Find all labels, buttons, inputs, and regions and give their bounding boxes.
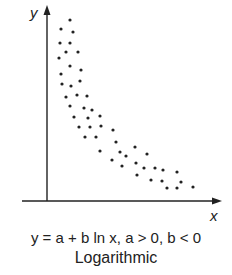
- data-point: [133, 145, 136, 148]
- data-points: [57, 18, 194, 189]
- data-point: [175, 170, 178, 173]
- data-point: [69, 84, 72, 87]
- data-point: [68, 104, 71, 107]
- data-point: [98, 149, 101, 152]
- data-point: [153, 166, 156, 169]
- data-point: [142, 166, 145, 169]
- data-point: [64, 95, 67, 98]
- data-point: [94, 135, 97, 138]
- data-point: [88, 125, 91, 128]
- data-point: [78, 79, 81, 82]
- data-point: [118, 150, 121, 153]
- data-point: [76, 50, 79, 53]
- data-point: [124, 154, 127, 157]
- data-point: [86, 116, 89, 119]
- data-point: [72, 115, 75, 118]
- chart-type-label: Logarithmic: [0, 249, 232, 267]
- equation-caption: y = a + b ln x, a > 0, b < 0: [0, 229, 232, 246]
- data-point: [64, 50, 67, 53]
- data-point: [134, 161, 137, 164]
- data-point: [57, 56, 60, 59]
- data-point: [149, 178, 152, 181]
- data-point: [114, 140, 117, 143]
- y-axis-label: y: [29, 4, 39, 21]
- data-point: [99, 124, 102, 127]
- x-axis: [22, 198, 222, 205]
- data-point: [75, 93, 78, 96]
- data-point: [98, 114, 101, 117]
- data-point: [77, 125, 80, 128]
- data-point: [165, 186, 168, 189]
- data-point: [58, 41, 61, 44]
- data-point: [71, 30, 74, 33]
- data-point: [68, 41, 71, 44]
- data-point: [82, 106, 85, 109]
- data-point: [60, 82, 63, 85]
- data-point: [191, 185, 194, 188]
- scatter-plot: y x: [0, 0, 232, 225]
- y-axis-arrow-icon: [44, 5, 51, 15]
- data-point: [83, 135, 86, 138]
- data-point: [120, 164, 123, 167]
- y-axis: [44, 5, 51, 201]
- data-point: [90, 108, 93, 111]
- data-point: [175, 186, 178, 189]
- data-point: [68, 18, 71, 21]
- data-point: [179, 180, 182, 183]
- data-point: [135, 173, 138, 176]
- data-point: [85, 94, 88, 97]
- data-point: [111, 128, 114, 131]
- data-point: [68, 64, 71, 67]
- data-point: [161, 168, 164, 171]
- data-point: [59, 27, 62, 30]
- data-point: [110, 158, 113, 161]
- data-point: [79, 68, 82, 71]
- data-point: [59, 72, 62, 75]
- x-axis-arrow-icon: [212, 198, 222, 205]
- data-point: [160, 179, 163, 182]
- x-axis-label: x: [209, 207, 218, 224]
- data-point: [145, 152, 148, 155]
